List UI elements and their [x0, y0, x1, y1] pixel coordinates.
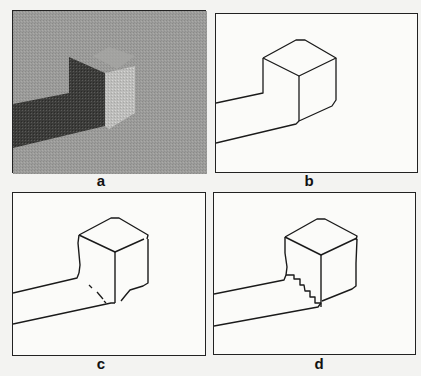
panel-label-c: c — [91, 355, 111, 372]
panel-label-b: b — [299, 172, 319, 189]
panel-c-edge-detection — [12, 192, 206, 356]
panel-label-d: d — [309, 355, 329, 372]
panel-d-staircase-edges — [213, 192, 416, 355]
panel-b-line-drawing — [215, 13, 418, 173]
panel-label-a: a — [91, 172, 111, 189]
cube-line-drawing — [216, 14, 419, 174]
shaded-cube-render — [13, 11, 207, 174]
edge-detected-drawing — [13, 193, 207, 357]
panel-a-shaded-image — [12, 10, 206, 173]
staircase-edge-drawing — [214, 193, 417, 356]
